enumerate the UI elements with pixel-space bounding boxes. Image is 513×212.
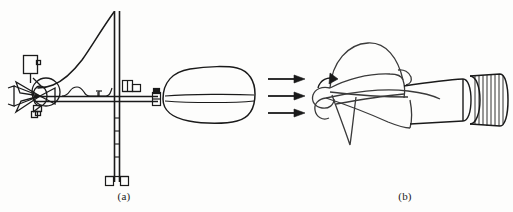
- flow-arrow-1: [268, 75, 305, 83]
- cup-rotor: [8, 78, 60, 118]
- panel-b-group: [268, 43, 508, 145]
- tapered-body: [404, 79, 463, 124]
- crossarm-fitting: [96, 81, 141, 97]
- panel-b-caption: (b): [385, 190, 425, 202]
- tail-ribs: [475, 74, 503, 126]
- wind-flow-arrows: [268, 75, 305, 117]
- support-sweep: [38, 12, 114, 88]
- ribbed-tail-housing: [463, 74, 508, 126]
- figure-container: (a) (b): [0, 0, 513, 212]
- cable: [62, 87, 112, 96]
- propeller-blades: [326, 43, 440, 145]
- vane-tail: [163, 67, 255, 124]
- flow-arrow-3: [268, 109, 305, 117]
- figure-illustration: [0, 0, 513, 212]
- sensor-box: [24, 56, 41, 84]
- crossarm: [34, 97, 158, 102]
- mast-base: [106, 177, 129, 186]
- panel-a-caption: (a): [104, 190, 144, 202]
- panel-a-group: [8, 11, 255, 186]
- flow-arrow-2: [268, 92, 305, 100]
